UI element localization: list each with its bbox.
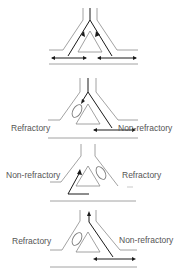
refractory-zone	[94, 165, 108, 181]
left-zone-label: Refractory	[12, 237, 51, 246]
left-zone-label: Non-refractory	[6, 171, 60, 180]
panel-1-bidirectional	[0, 0, 183, 70]
panel-2: Refractory Non-refractory	[0, 70, 183, 140]
refractory-zone	[70, 103, 84, 119]
right-zone-label: Non-refractory	[118, 124, 172, 133]
panel-4-reentry: Refractory Non-refractory	[0, 205, 183, 278]
right-zone-label: Non-refractory	[119, 236, 173, 245]
pathway-diagram-1	[0, 0, 183, 70]
panel-3: Non-refractory Refractory	[0, 140, 183, 205]
right-zone-label: Refractory	[122, 171, 161, 180]
left-zone-label: Refractory	[11, 124, 50, 133]
